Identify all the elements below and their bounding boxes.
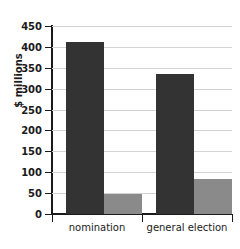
bar-general-election-dark (156, 74, 194, 214)
gridline-450 (52, 26, 232, 27)
category-tick-right (232, 214, 233, 222)
y-tick-label-450: 450 (21, 21, 42, 32)
bar-nomination-light (104, 194, 142, 214)
y-tick-label-50: 50 (28, 188, 42, 199)
y-tick-label-400: 400 (21, 42, 42, 53)
category-label-general-election: general election (142, 222, 232, 233)
y-tick-label-250: 250 (21, 105, 42, 116)
bar-general-election-light (194, 179, 232, 214)
y-tick-label-200: 200 (21, 125, 42, 136)
category-axis (52, 214, 233, 215)
category-tick-left (52, 214, 53, 222)
y-tick-label-350: 350 (21, 63, 42, 74)
y-tick-label-150: 150 (21, 146, 42, 157)
bar-chart: $ millions 450 400 350 300 250 200 150 1… (0, 0, 240, 249)
bar-nomination-dark (66, 42, 104, 214)
y-tick-label-300: 300 (21, 84, 42, 95)
plot-area (52, 26, 232, 214)
y-tick-label-0: 0 (35, 209, 42, 220)
category-label-nomination: nomination (52, 222, 142, 233)
category-tick-middle (142, 214, 143, 222)
y-tick-label-100: 100 (21, 167, 42, 178)
